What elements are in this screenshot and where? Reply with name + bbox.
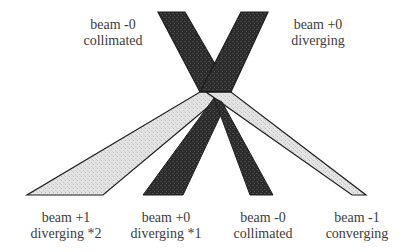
- label-bottom-3-line2: collimated: [233, 226, 292, 242]
- label-top-right: beam +0 diverging: [291, 17, 344, 49]
- label-top-right-line2: diverging: [291, 33, 344, 49]
- label-bottom-2: beam +0 diverging *1: [131, 210, 202, 242]
- label-bottom-4: beam -1 converging: [326, 210, 389, 242]
- label-bottom-1-line2: diverging *2: [31, 226, 102, 242]
- label-top-left: beam -0 collimated: [83, 17, 142, 49]
- label-bottom-3-line1: beam -0: [233, 210, 292, 226]
- label-bottom-4-line2: converging: [326, 226, 389, 242]
- label-bottom-2-line2: diverging *1: [131, 226, 202, 242]
- label-bottom-2-line1: beam +0: [131, 210, 202, 226]
- label-bottom-3: beam -0 collimated: [233, 210, 292, 242]
- label-top-left-line2: collimated: [83, 33, 142, 49]
- beam-minus1-converging-light: [206, 92, 366, 195]
- label-top-left-line1: beam -0: [83, 17, 142, 33]
- label-bottom-1-line1: beam +1: [31, 210, 102, 226]
- label-bottom-1: beam +1 diverging *2: [31, 210, 102, 242]
- label-top-right-line1: beam +0: [291, 17, 344, 33]
- beam-upper-right-dark: [200, 12, 268, 92]
- label-bottom-4-line1: beam -1: [326, 210, 389, 226]
